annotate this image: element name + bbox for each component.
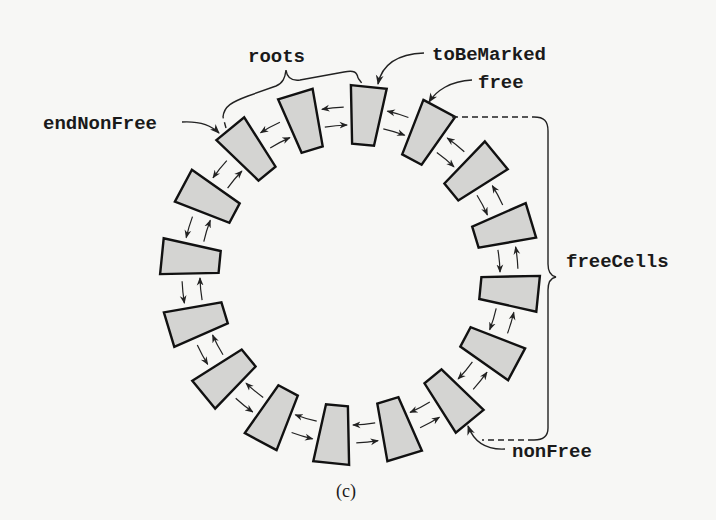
- prev-link-arrow: [420, 417, 439, 427]
- heap-cell-9: [245, 385, 298, 450]
- heap-cell-8: [313, 404, 349, 465]
- freeCells-label: freeCells: [566, 251, 669, 273]
- prev-link-arrow: [197, 345, 207, 364]
- prev-link-arrow: [322, 107, 344, 109]
- prev-link-arrow: [261, 122, 280, 132]
- next-link-arrow: [200, 278, 202, 300]
- prev-link-arrow: [292, 433, 313, 439]
- free-label: free: [478, 72, 524, 94]
- next-link-arrow: [498, 250, 500, 272]
- heap-cell-10: [192, 350, 255, 409]
- roots-label: roots: [248, 46, 305, 68]
- heap-cell-7: [377, 397, 422, 461]
- heap-cell-2: [444, 141, 507, 200]
- next-link-arrow: [490, 308, 497, 329]
- prev-link-arrow: [508, 312, 514, 333]
- nonFree-label: nonFree: [512, 441, 592, 463]
- toBeMarked-pointer-arrow: [378, 53, 424, 84]
- next-link-arrow: [437, 153, 454, 167]
- prev-link-arrow: [213, 161, 227, 178]
- heap-cell-5: [460, 327, 525, 380]
- next-link-arrow: [213, 335, 223, 355]
- next-link-arrow: [458, 362, 472, 379]
- heap-cell-13: [175, 170, 240, 223]
- prev-link-arrow: [516, 247, 518, 269]
- linked-cell-ring-diagram: roots toBeMarked free endNonFree freeCel…: [0, 0, 716, 520]
- prev-link-arrow: [356, 441, 378, 443]
- next-link-arrow: [325, 125, 347, 127]
- prev-link-arrow: [473, 372, 487, 389]
- free-pointer-arrow: [429, 80, 472, 102]
- heap-cell-4: [479, 276, 540, 312]
- heap-cell-3: [472, 203, 536, 248]
- next-link-arrow: [246, 383, 263, 397]
- cell-ring: [160, 85, 540, 465]
- endNonFree-label: endNonFree: [43, 113, 157, 135]
- prev-link-arrow: [186, 217, 192, 238]
- cell-links: [182, 107, 518, 443]
- toBeMarked-label: toBeMarked: [432, 44, 546, 66]
- next-link-arrow: [477, 195, 487, 215]
- next-link-arrow: [410, 402, 430, 412]
- prev-link-arrow: [182, 281, 184, 303]
- nonFree-pointer-arrow: [468, 426, 505, 449]
- heap-cell-0: [351, 85, 387, 146]
- heap-cell-15: [278, 89, 323, 153]
- prev-link-arrow: [447, 138, 464, 152]
- prev-link-arrow: [387, 111, 408, 117]
- next-link-arrow: [204, 220, 211, 241]
- heap-cell-1: [402, 100, 455, 165]
- next-link-arrow: [383, 129, 404, 136]
- figure-caption: (c): [336, 481, 356, 502]
- heap-cell-11: [164, 302, 228, 347]
- prev-link-arrow: [492, 186, 502, 205]
- heap-cell-12: [160, 238, 221, 274]
- heap-cell-6: [425, 369, 484, 432]
- endNonFree-pointer-arrow: [182, 122, 219, 133]
- next-link-arrow: [353, 423, 375, 425]
- next-link-arrow: [270, 138, 290, 148]
- next-link-arrow: [228, 171, 242, 188]
- prev-link-arrow: [236, 398, 253, 412]
- next-link-arrow: [295, 415, 316, 422]
